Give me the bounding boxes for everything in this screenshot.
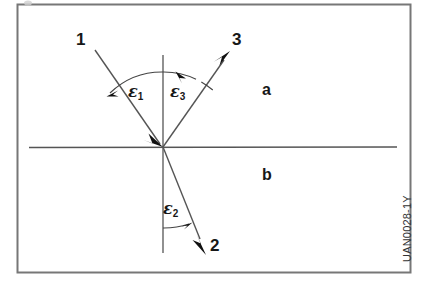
angle-epsilon3-subscript: 3 bbox=[180, 91, 186, 102]
figure-code-label: UAN0028-1Y bbox=[402, 195, 413, 262]
ray-1-label: 1 bbox=[76, 31, 85, 48]
scan-speck bbox=[24, 1, 32, 6]
angle-epsilon2-label: ε2 bbox=[163, 201, 178, 217]
angle-epsilon1-symbol: ε bbox=[128, 82, 138, 101]
angle-epsilon2-subscript: 2 bbox=[173, 208, 179, 219]
angle-arc-epsilon2 bbox=[163, 224, 189, 228]
ray-3-label: 3 bbox=[232, 31, 241, 48]
medium-b-label: b bbox=[262, 167, 272, 183]
medium-a-label: a bbox=[262, 82, 271, 98]
angle-epsilon3-symbol: ε bbox=[170, 82, 180, 101]
ray-2-label: 2 bbox=[210, 237, 219, 254]
angle-epsilon3-label: ε3 bbox=[170, 84, 185, 100]
angle-epsilon2-symbol: ε bbox=[163, 199, 173, 218]
angle-epsilon1-label: ε1 bbox=[128, 84, 143, 100]
reflected-ray-line bbox=[163, 60, 224, 147]
incident-ray-arrowhead bbox=[144, 134, 164, 148]
interface-line bbox=[29, 147, 397, 148]
figure-container: 1 3 2 a b ε1 ε3 ε2 UAN0028-1Y bbox=[0, 0, 427, 287]
angle-epsilon1-subscript: 1 bbox=[138, 91, 144, 102]
angle-arc-epsilon2-arrowhead bbox=[182, 223, 193, 230]
refracted-ray-line bbox=[163, 147, 200, 239]
